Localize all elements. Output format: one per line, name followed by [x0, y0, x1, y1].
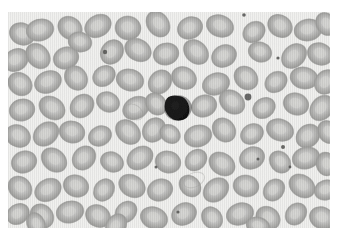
blood-cells-canvas	[8, 12, 330, 228]
microscopy-field	[8, 12, 330, 228]
film-grain	[8, 12, 330, 228]
micrograph-stage	[0, 0, 341, 243]
